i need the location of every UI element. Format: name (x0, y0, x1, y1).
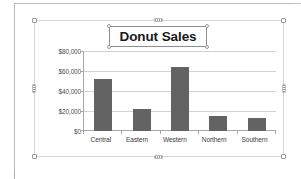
x-axis-tick (160, 131, 161, 134)
chart-handle-bottom-left[interactable] (32, 154, 37, 159)
x-axis-tick (237, 131, 238, 134)
chart-handle-top-center[interactable] (154, 18, 163, 22)
x-axis-tick (83, 131, 84, 134)
chart-handle-bottom-right[interactable] (281, 154, 286, 159)
title-handle-top-right[interactable] (205, 24, 209, 28)
chart-handle-bottom-center[interactable] (154, 155, 163, 159)
x-axis-tick-label: Central (90, 136, 111, 143)
title-handle-bottom-left[interactable] (107, 45, 111, 49)
bar[interactable] (209, 116, 227, 131)
y-axis-tick-label: $40,000 (59, 88, 81, 95)
bar[interactable] (133, 109, 151, 131)
y-axis-tick-label: $20,000 (59, 108, 81, 115)
x-axis-tick-label: Western (163, 136, 187, 143)
x-axis-tick-label: Eastern (126, 136, 148, 143)
bar[interactable] (248, 118, 266, 131)
chart-title: Donut Sales (110, 27, 206, 46)
title-handle-top-left[interactable] (107, 24, 111, 28)
x-axis-labels: CentralEasternWesternNorthernSouthern (83, 136, 275, 143)
chart-handle-top-right[interactable] (281, 18, 286, 23)
y-axis-tick-label: $80,000 (59, 48, 81, 55)
document-page: $80,000$60,000$40,000$20,000$0 CentralEa… (0, 0, 301, 179)
x-axis-tick (275, 131, 276, 134)
y-axis-tick-label: $0 (74, 128, 81, 135)
x-axis-tick-label: Southern (242, 136, 268, 143)
x-axis-tick-label: Northern (202, 136, 227, 143)
bar-series[interactable] (84, 51, 276, 131)
y-axis-tick-label: $60,000 (59, 68, 81, 75)
x-axis-ticks (83, 131, 275, 135)
chart-handle-top-left[interactable] (32, 18, 37, 23)
chart-handle-right-middle[interactable] (282, 84, 286, 93)
x-axis-tick (198, 131, 199, 134)
bar[interactable] (94, 79, 112, 131)
chart-title-box[interactable]: Donut Sales (109, 26, 207, 47)
y-axis-labels: $80,000$60,000$40,000$20,000$0 (39, 51, 81, 131)
chart-object[interactable]: $80,000$60,000$40,000$20,000$0 CentralEa… (34, 20, 284, 157)
chart-handle-left-middle[interactable] (32, 84, 36, 93)
x-axis-tick (121, 131, 122, 134)
plot-area[interactable] (83, 51, 275, 131)
title-handle-bottom-right[interactable] (205, 45, 209, 49)
bar[interactable] (171, 67, 189, 131)
